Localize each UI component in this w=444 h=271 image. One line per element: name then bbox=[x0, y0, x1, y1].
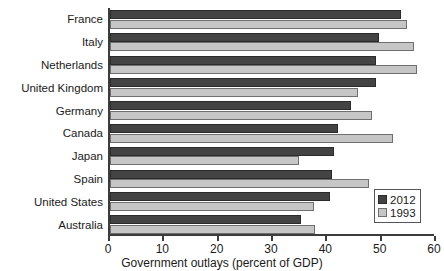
legend-swatch-1993-icon bbox=[378, 208, 387, 217]
bar-united-states-2012 bbox=[110, 192, 330, 201]
category-label-france: France bbox=[0, 13, 103, 25]
bar-united-states-1993 bbox=[110, 202, 314, 211]
category-label-japan: Japan bbox=[0, 150, 103, 162]
x-tick-30 bbox=[271, 236, 273, 241]
category-label-italy: Italy bbox=[0, 36, 103, 48]
x-tick-label-10: 10 bbox=[156, 242, 169, 256]
bar-france-2012 bbox=[110, 10, 401, 19]
x-tick-10 bbox=[162, 236, 164, 241]
x-tick-label-40: 40 bbox=[319, 242, 332, 256]
x-tick-20 bbox=[217, 236, 219, 241]
bar-spain-1993 bbox=[110, 179, 369, 188]
x-tick-60 bbox=[434, 236, 436, 241]
category-label-united-kingdom: United Kingdom bbox=[0, 82, 103, 94]
bar-italy-2012 bbox=[110, 33, 379, 42]
bar-germany-2012 bbox=[110, 101, 351, 110]
bar-canada-1993 bbox=[110, 134, 393, 143]
category-label-netherlands: Netherlands bbox=[0, 59, 103, 71]
bar-australia-2012 bbox=[110, 215, 301, 224]
x-tick-label-60: 60 bbox=[427, 242, 440, 256]
x-tick-label-0: 0 bbox=[105, 242, 112, 256]
bar-germany-1993 bbox=[110, 111, 372, 120]
bar-italy-1993 bbox=[110, 42, 414, 51]
bar-netherlands-2012 bbox=[110, 56, 376, 65]
legend-item-1993: 1993 bbox=[378, 206, 416, 219]
bar-france-1993 bbox=[110, 20, 407, 29]
category-label-canada: Canada bbox=[0, 127, 103, 139]
x-tick-40 bbox=[325, 236, 327, 241]
x-tick-label-20: 20 bbox=[210, 242, 223, 256]
bar-japan-1993 bbox=[110, 156, 299, 165]
bar-canada-2012 bbox=[110, 124, 338, 133]
bar-chart: FranceItalyNetherlandsUnited KingdomGerm… bbox=[0, 0, 444, 271]
chart-legend: 2012 1993 bbox=[374, 189, 421, 223]
legend-swatch-2012-icon bbox=[378, 195, 387, 204]
x-tick-50 bbox=[380, 236, 382, 241]
x-axis-title: Government outlays (percent of GDP) bbox=[0, 256, 444, 270]
bar-spain-2012 bbox=[110, 170, 332, 179]
x-tick-label-30: 30 bbox=[264, 242, 277, 256]
x-tick-label-50: 50 bbox=[373, 242, 386, 256]
legend-item-2012: 2012 bbox=[378, 193, 416, 206]
bar-united-kingdom-2012 bbox=[110, 78, 376, 87]
bar-united-kingdom-1993 bbox=[110, 88, 358, 97]
legend-label-1993: 1993 bbox=[390, 207, 416, 219]
category-label-united-states: United States bbox=[0, 196, 103, 208]
bar-netherlands-1993 bbox=[110, 65, 417, 74]
bar-australia-1993 bbox=[110, 225, 315, 234]
bar-japan-2012 bbox=[110, 147, 334, 156]
category-label-spain: Spain bbox=[0, 173, 103, 185]
legend-label-2012: 2012 bbox=[390, 194, 416, 206]
category-label-germany: Germany bbox=[0, 105, 103, 117]
category-label-australia: Australia bbox=[0, 219, 103, 231]
category-axis-labels: FranceItalyNetherlandsUnited KingdomGerm… bbox=[0, 8, 103, 236]
x-tick-0 bbox=[108, 236, 110, 241]
